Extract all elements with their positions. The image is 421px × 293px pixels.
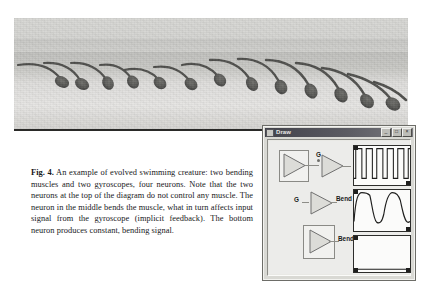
label-bend-bottom: Bend <box>338 235 354 242</box>
figure-label: Fig. 4. <box>31 168 54 177</box>
plot-handle-bottomright[interactable] <box>406 181 410 185</box>
minimize-button[interactable]: _ <box>381 128 391 137</box>
plot-constant-signal[interactable] <box>353 235 411 273</box>
wire-topleft-out <box>305 165 319 166</box>
draw-window[interactable]: Draw _ □ × G G <box>262 125 416 281</box>
wire-topright-out <box>342 166 351 167</box>
plot-square-wave-trace <box>354 146 410 181</box>
plot-handle-bottomright[interactable] <box>406 268 410 272</box>
figure-caption: Fig. 4. An example of evolved swimming c… <box>31 167 253 236</box>
plot-handle-topleft[interactable] <box>354 190 358 194</box>
window-client-area: G G Bend Bend <box>267 139 411 276</box>
neuron-top-left-symbol[interactable] <box>281 152 307 179</box>
plot-handle-topleft[interactable] <box>354 236 358 240</box>
plot-handle-topleft[interactable] <box>354 146 358 150</box>
plot-constant-signal-trace <box>354 236 410 271</box>
plot-smooth-wave-trace <box>354 190 410 225</box>
plot-handle-bottomright[interactable] <box>406 227 410 231</box>
app-icon <box>266 129 274 137</box>
neuron-middle-symbol[interactable] <box>308 190 334 216</box>
maximize-button[interactable]: □ <box>392 128 402 137</box>
plot-handle-bottomleft[interactable] <box>354 268 358 272</box>
plot-square-wave[interactable] <box>353 145 411 186</box>
window-titlebar[interactable]: Draw _ □ × <box>265 128 413 137</box>
window-title: Draw <box>276 128 291 137</box>
plot-smooth-wave[interactable] <box>353 189 411 232</box>
photo-film-grain <box>14 18 408 131</box>
wire-middle-out <box>330 202 337 203</box>
diagram-canvas[interactable]: G G Bend Bend <box>269 141 409 274</box>
close-button[interactable]: × <box>402 128 412 137</box>
label-g-middle: G <box>294 196 299 203</box>
creature-photograph <box>14 18 408 131</box>
figure-caption-text: An example of evolved swimming creature:… <box>31 168 253 235</box>
label-bend-middle: Bend <box>336 195 352 202</box>
window-control-buttons[interactable]: _ □ × <box>381 128 412 137</box>
